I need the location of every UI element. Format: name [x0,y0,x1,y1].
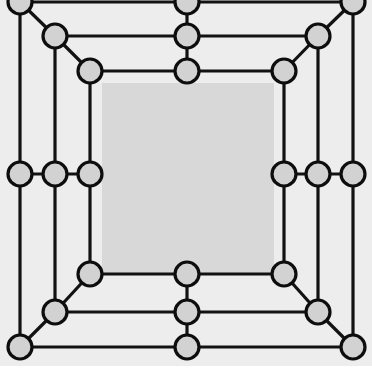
graph-node-i-tm[interactable] [175,59,199,83]
graph-node-i-br[interactable] [272,262,296,286]
graph-node-m-lm[interactable] [43,162,67,186]
graph-node-o-tm[interactable] [175,0,199,14]
graph-node-i-tr[interactable] [272,59,296,83]
graph-node-m-rm[interactable] [306,162,330,186]
graph-node-o-rm[interactable] [341,162,365,186]
graph-node-i-tl[interactable] [78,59,102,83]
graph-node-i-rm[interactable] [272,162,296,186]
graph-node-m-bl[interactable] [43,300,67,324]
graph-node-o-br[interactable] [341,335,365,359]
graph-node-m-tr[interactable] [306,24,330,48]
graph-node-i-lm[interactable] [78,162,102,186]
figure-root [0,0,372,382]
inner-background-panel [102,83,274,273]
graph-node-i-bl[interactable] [78,262,102,286]
graph-node-m-bm[interactable] [175,300,199,324]
graph-node-m-tl[interactable] [43,24,67,48]
graph-node-i-bm[interactable] [175,262,199,286]
graph-node-o-tr[interactable] [341,0,365,14]
graph-node-o-tl[interactable] [8,0,32,14]
graph-node-o-bm[interactable] [175,335,199,359]
graph-node-o-bl[interactable] [8,335,32,359]
graph-node-m-br[interactable] [306,300,330,324]
graph-node-o-lm[interactable] [8,162,32,186]
node-link-graph [0,0,372,382]
graph-node-m-tm[interactable] [175,24,199,48]
